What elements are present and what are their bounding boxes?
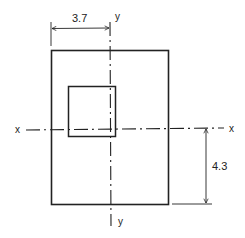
x-axis-line xyxy=(26,128,224,130)
x-axis-label-left: x xyxy=(15,124,20,135)
dim-3-7-line xyxy=(52,28,109,29)
x-axis-label-right: x xyxy=(229,123,234,134)
y-axis-label-bottom: y xyxy=(118,216,123,227)
dimension-label-horizontal: 3.7 xyxy=(72,12,87,24)
y-axis-line xyxy=(110,22,111,226)
dimension-label-vertical: 4.3 xyxy=(212,160,227,172)
y-axis-label-top: y xyxy=(115,11,120,22)
section-diagram: 3.7 4.3 y y x x xyxy=(0,0,245,238)
